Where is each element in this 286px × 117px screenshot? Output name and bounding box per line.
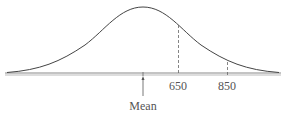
normal-curve-diagram: 650 850 Mean bbox=[0, 0, 286, 117]
label-mean: Mean bbox=[129, 99, 156, 113]
normal-curve bbox=[7, 7, 279, 73]
label-850: 850 bbox=[218, 79, 236, 93]
mean-arrowhead-icon bbox=[142, 76, 145, 80]
label-650: 650 bbox=[169, 79, 187, 93]
